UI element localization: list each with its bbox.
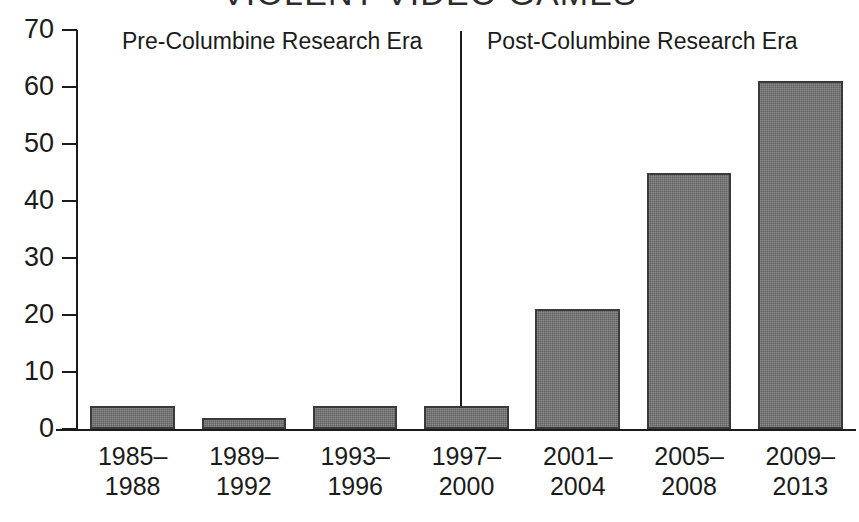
- x-axis-tick-label-line: 1997–: [411, 441, 522, 471]
- x-axis-tick-label: 1989–1992: [188, 441, 299, 501]
- bar: [313, 406, 398, 429]
- x-axis-tick-label-line: 2009–: [745, 441, 856, 471]
- bar-chart: VIOLENT VIDEO GAMES 010203040506070 Pre-…: [0, 0, 859, 522]
- x-axis-tick-label-line: 2004: [522, 471, 633, 501]
- x-axis-tick-label: 2001–2004: [522, 441, 633, 501]
- bar: [535, 309, 620, 429]
- x-axis-tick-label-line: 2000: [411, 471, 522, 501]
- x-axis-tick-label-line: 2008: [633, 471, 744, 501]
- x-axis-tick-label: 1993–1996: [300, 441, 411, 501]
- x-axis-tick-label-line: 2013: [745, 471, 856, 501]
- x-axis-tick-label-line: 1985–: [77, 441, 188, 471]
- x-axis-tick-label-line: 1989–: [188, 441, 299, 471]
- x-axis-tick-label: 2005–2008: [633, 441, 744, 501]
- x-axis-tick-label-line: 2005–: [633, 441, 744, 471]
- x-axis-tick-label: 2009–2013: [745, 441, 856, 501]
- x-axis-tick-label-line: 2001–: [522, 441, 633, 471]
- bar: [758, 81, 843, 429]
- bar: [202, 418, 287, 429]
- x-axis-tick-label-line: 1996: [300, 471, 411, 501]
- x-axis-tick-label: 1997–2000: [411, 441, 522, 501]
- x-axis-tick-label: 1985–1988: [77, 441, 188, 501]
- bar: [424, 406, 509, 429]
- x-axis-tick-label-line: 1992: [188, 471, 299, 501]
- x-axis-tick-label-line: 1988: [77, 471, 188, 501]
- bar: [647, 173, 732, 430]
- x-axis-tick-label-line: 1993–: [300, 441, 411, 471]
- bar: [90, 406, 175, 429]
